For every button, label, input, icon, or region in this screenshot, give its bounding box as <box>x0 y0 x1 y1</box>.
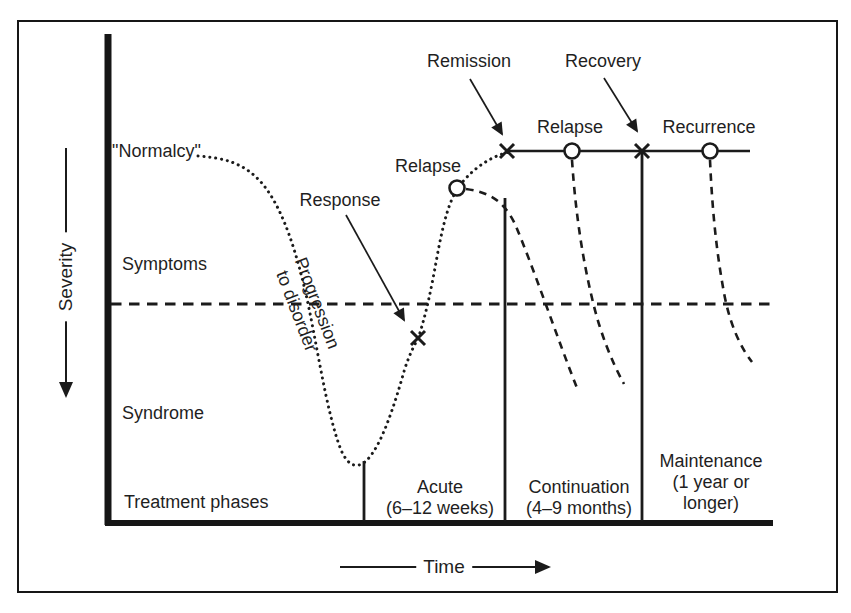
continuation-phase-duration: (4–9 months) <box>526 498 632 519</box>
diagram-canvas <box>0 0 851 613</box>
recurrence-dashed-curve <box>710 160 752 362</box>
response-x-marker <box>411 331 425 345</box>
continuation-phase-name: Continuation <box>526 477 632 498</box>
maintenance-phase-label: Maintenance (1 year or longer) <box>659 451 762 514</box>
acute-phase-duration: (6–12 weeks) <box>386 498 494 519</box>
symptoms-label: Symptoms <box>122 254 207 274</box>
recurrence-label: Recurrence <box>662 117 755 137</box>
continuation-phase-label: Continuation (4–9 months) <box>526 477 632 519</box>
relapse-dashed-curve-1 <box>466 189 577 388</box>
maintenance-phase-duration-line2: longer) <box>659 493 762 514</box>
syndrome-label: Syndrome <box>122 403 204 423</box>
time-axis-label: Time <box>416 556 472 578</box>
response-label: Response <box>299 190 380 210</box>
relapse-label-first: Relapse <box>395 156 461 176</box>
treatment-phases-label: Treatment phases <box>124 492 268 512</box>
acute-phase-name: Acute <box>386 477 494 498</box>
acute-phase-label: Acute (6–12 weeks) <box>386 477 494 519</box>
relapse-circle-marker-1 <box>450 181 465 196</box>
figure-page: Severity Time "Normalcy" Symptoms Syndro… <box>0 0 851 613</box>
relapse-circle-marker-2 <box>565 144 580 159</box>
severity-axis-label: Severity <box>51 233 81 322</box>
relapse-label-second: Relapse <box>537 117 603 137</box>
remission-arrow <box>470 79 502 134</box>
relapse-dashed-curve-2 <box>572 160 624 384</box>
maintenance-phase-name: Maintenance <box>659 451 762 472</box>
remission-label: Remission <box>427 51 511 71</box>
recurrence-circle-marker <box>703 144 718 159</box>
recovery-arrow <box>604 78 637 131</box>
maintenance-phase-duration-line1: (1 year or <box>659 472 762 493</box>
recovery-label: Recovery <box>565 51 641 71</box>
normalcy-label: "Normalcy" <box>112 141 201 161</box>
